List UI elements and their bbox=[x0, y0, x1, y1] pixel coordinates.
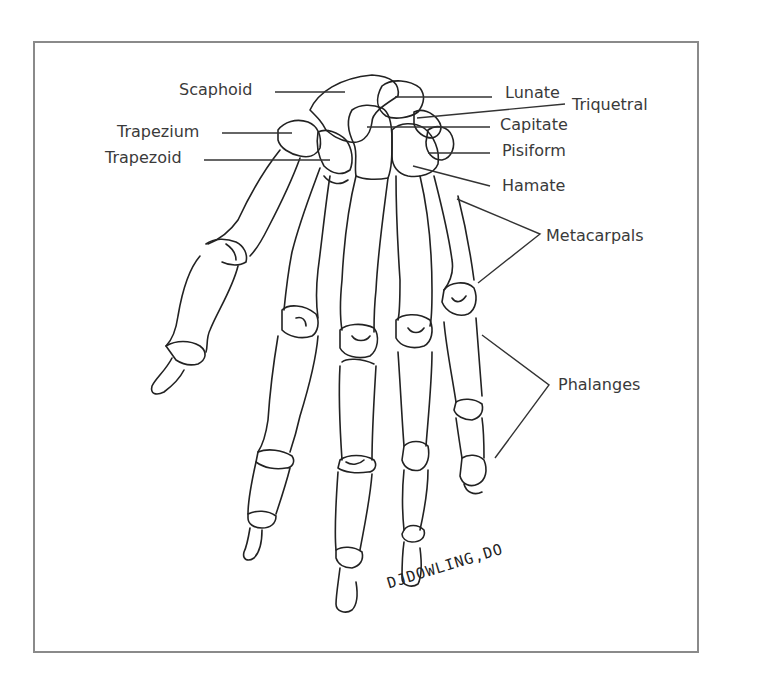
label-scaphoid: Scaphoid bbox=[179, 82, 252, 98]
index-finger-bones bbox=[244, 168, 330, 560]
middle-finger-bones bbox=[335, 176, 388, 612]
thumb-bones bbox=[152, 150, 300, 394]
label-trapezium: Trapezium bbox=[117, 124, 199, 140]
label-capitate: Capitate bbox=[500, 117, 568, 133]
ring-finger-bones bbox=[396, 176, 432, 586]
label-hamate: Hamate bbox=[502, 178, 565, 194]
label-pisiform: Pisiform bbox=[502, 143, 566, 159]
label-triquetral: Triquetral bbox=[572, 97, 648, 113]
label-metacarpals: Metacarpals bbox=[546, 228, 644, 244]
label-lunate: Lunate bbox=[505, 85, 560, 101]
carpal-bones bbox=[278, 75, 454, 183]
label-trapezoid: Trapezoid bbox=[105, 150, 182, 166]
little-finger-bones bbox=[434, 176, 486, 494]
label-phalanges: Phalanges bbox=[558, 377, 640, 393]
